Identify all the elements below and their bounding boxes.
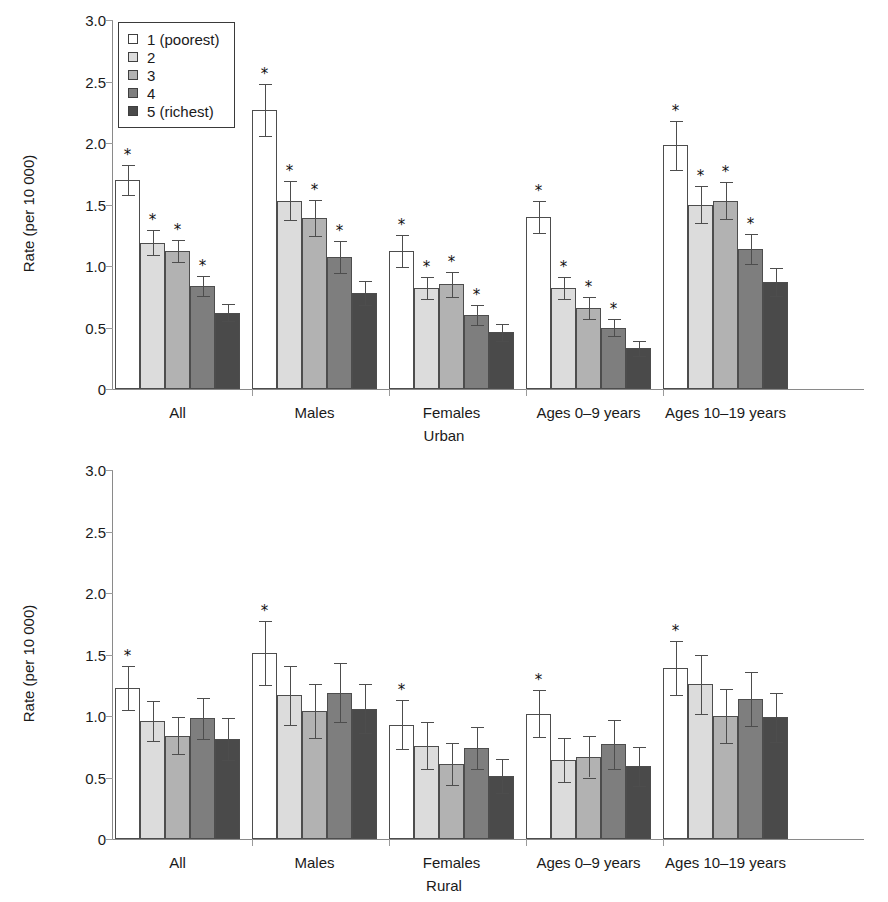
error-bar: [427, 277, 428, 299]
error-bar: [178, 240, 179, 262]
error-bar-cap: [695, 223, 708, 224]
error-bar: [614, 720, 615, 769]
error-bar: [203, 698, 204, 740]
bar: [688, 205, 713, 390]
error-bar-cap: [471, 727, 484, 728]
y-axis-tick-label: 0: [62, 832, 106, 847]
y-axis-tick-label: 2.5: [62, 524, 106, 539]
significance-asterisk: *: [120, 649, 136, 664]
error-bar-cap: [197, 698, 210, 699]
error-bar-cap: [197, 276, 210, 277]
error-bar-cap: [720, 743, 733, 744]
error-bar-cap: [359, 733, 372, 734]
error-bar: [477, 727, 478, 769]
x-axis-category-label: All: [169, 854, 186, 871]
error-bar-cap: [122, 165, 135, 166]
error-bar-cap: [608, 720, 621, 721]
error-bar-cap: [633, 341, 646, 342]
error-bar: [452, 743, 453, 785]
error-bar-cap: [197, 296, 210, 297]
error-bar-cap: [421, 277, 434, 278]
y-axis-tick-mark: [106, 470, 113, 471]
error-bar-cap: [222, 718, 235, 719]
error-bar-cap: [334, 722, 347, 723]
error-bar: [427, 722, 428, 769]
error-bar-cap: [633, 786, 646, 787]
error-bar-cap: [558, 277, 571, 278]
x-axis-line: [112, 839, 864, 840]
error-bar-cap: [670, 695, 683, 696]
error-bar-cap: [670, 641, 683, 642]
significance-asterisk: *: [693, 169, 709, 184]
error-bar: [701, 186, 702, 223]
error-bar-cap: [359, 305, 372, 306]
error-bar: [676, 121, 677, 170]
legend-item-label: 2: [147, 49, 155, 66]
error-bar: [539, 201, 540, 233]
bar: [576, 308, 601, 389]
error-bar-cap: [533, 737, 546, 738]
y-axis-tick-mark: [106, 205, 113, 206]
error-bar-cap: [446, 785, 459, 786]
error-bar: [776, 693, 777, 742]
figure-root: 00.51.01.52.02.53.0Rate (per 10 000)****…: [0, 0, 888, 902]
significance-asterisk: *: [394, 218, 410, 233]
bar: [663, 145, 688, 389]
y-axis-tick-label: 2.0: [62, 586, 106, 601]
bar: [352, 293, 377, 389]
error-bar-cap: [533, 201, 546, 202]
error-bar-cap: [284, 181, 297, 182]
error-bar: [614, 319, 615, 336]
error-bar-cap: [122, 666, 135, 667]
error-bar-cap: [396, 749, 409, 750]
bar: [713, 201, 738, 389]
significance-asterisk: *: [195, 259, 211, 274]
error-bar-cap: [496, 341, 509, 342]
error-bar-cap: [147, 255, 160, 256]
error-bar-cap: [471, 305, 484, 306]
x-axis-category-label: All: [169, 404, 186, 421]
legend-item-label: 1 (poorest): [147, 31, 220, 48]
y-axis-tick-mark: [106, 389, 113, 390]
error-bar-cap: [122, 195, 135, 196]
error-bar: [178, 717, 179, 754]
y-axis-tick-label: 0: [62, 382, 106, 397]
significance-asterisk: *: [531, 184, 547, 199]
y-axis-title: Rate (per 10 000): [20, 514, 37, 814]
error-bar: [477, 305, 478, 325]
legend-item-label: 4: [147, 85, 155, 102]
error-bar: [340, 663, 341, 722]
error-bar-cap: [284, 725, 297, 726]
error-bar: [564, 277, 565, 299]
error-bar: [726, 689, 727, 743]
error-bar: [265, 84, 266, 136]
error-bar-cap: [533, 233, 546, 234]
error-bar-cap: [421, 769, 434, 770]
x-axis-category-label: Females: [423, 854, 481, 871]
error-bar-cap: [670, 170, 683, 171]
error-bar-cap: [421, 299, 434, 300]
error-bar-cap: [259, 621, 272, 622]
error-bar-cap: [259, 136, 272, 137]
error-bar: [751, 672, 752, 726]
y-axis-tick-label: 1.5: [62, 197, 106, 212]
legend-item-label: 5 (richest): [147, 103, 214, 120]
significance-asterisk: *: [718, 165, 734, 180]
error-bar: [564, 738, 565, 782]
bar: [327, 257, 352, 389]
error-bar-cap: [720, 689, 733, 690]
significance-asterisk: *: [743, 217, 759, 232]
significance-asterisk: *: [531, 673, 547, 688]
legend-item: 5 (richest): [128, 102, 220, 120]
y-axis-tick-mark: [106, 593, 113, 594]
error-bar: [290, 181, 291, 220]
error-bar: [153, 230, 154, 255]
error-bar-cap: [172, 754, 185, 755]
error-bar-cap: [197, 739, 210, 740]
error-bar-cap: [309, 738, 322, 739]
y-axis-tick-mark: [106, 82, 113, 83]
error-bar-cap: [172, 240, 185, 241]
significance-asterisk: *: [419, 260, 435, 275]
legend-item: 1 (poorest): [128, 30, 220, 48]
y-axis-title: Rate (per 10 000): [20, 64, 37, 364]
